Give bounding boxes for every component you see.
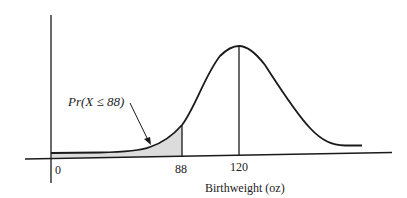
x-axis-label: Birthweight (oz) <box>205 181 285 195</box>
annotation-label: Pr(X ≤ 88) <box>67 94 124 109</box>
chart-svg: Pr(X ≤ 88) 0 88 120 Birthweight (oz) <box>0 0 407 198</box>
tick-label-88: 88 <box>175 162 187 176</box>
arrow-head-icon <box>144 137 151 145</box>
chart-figure: Pr(X ≤ 88) 0 88 120 Birthweight (oz) <box>0 0 407 198</box>
tick-label-120: 120 <box>230 160 248 174</box>
annotation-arrow <box>130 103 148 140</box>
tick-label-0: 0 <box>55 163 61 177</box>
